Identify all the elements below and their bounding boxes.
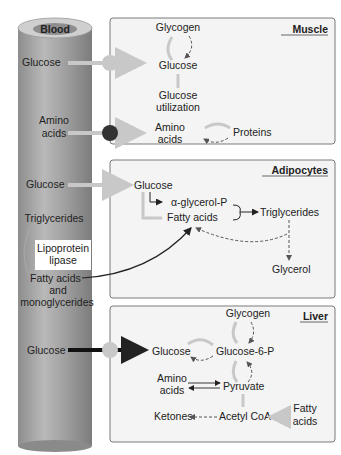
blood-fa-l1: Fatty acids (30, 272, 81, 284)
adipocytes-title: Adipocytes (271, 164, 328, 176)
adipo-triglycerides: Triglycerides (260, 206, 319, 218)
liver-fa-l1: Fatty (293, 402, 317, 414)
muscle-glucose-transporter (102, 55, 118, 71)
blood-amino-l2: acids (42, 127, 67, 139)
blood-glucose-liver: Glucose (27, 344, 66, 356)
blood-glucose-adipo: Glucose (26, 178, 65, 190)
liver-title: Liver (303, 310, 328, 322)
muscle-title: Muscle (292, 23, 328, 35)
liver-glycogen: Glycogen (226, 307, 271, 319)
muscle-amino-l2: acids (158, 133, 183, 145)
lpl-l2: lipase (49, 254, 77, 266)
liver-amino-l1: Amino (157, 372, 187, 384)
adipo-agp: α-glycerol-P (171, 196, 227, 208)
muscle-amino-l1: Amino (155, 121, 185, 133)
blood-triglycerides: Triglycerides (24, 212, 83, 224)
blood-glucose-muscle: Glucose (22, 56, 61, 68)
liver-g6p: Glucose-6-P (216, 345, 274, 357)
metabolism-diagram: Blood Glucose Amino acids Glucose Trigly… (0, 0, 341, 455)
vessel-bottom (18, 440, 92, 452)
blood-amino-l1: Amino (39, 114, 69, 126)
liver-amino-l2: acids (160, 384, 185, 396)
adipo-fatty-acids: Fatty acids (167, 211, 218, 223)
muscle-util-l2: utilization (156, 101, 200, 113)
adipo-glycerol: Glycerol (272, 263, 311, 275)
vessel-label: Blood (40, 23, 70, 35)
vessel-body (18, 28, 92, 446)
blood-fa-l3: monoglycerides (20, 296, 94, 308)
liver-glucose: Glucose (152, 345, 191, 357)
muscle-amino-transporter (102, 125, 118, 141)
muscle-proteins: Proteins (233, 126, 272, 138)
liver-pyruvate: Pyruvate (223, 380, 265, 392)
adipo-glucose-transporter (102, 177, 118, 193)
adipo-glucose: Glucose (134, 179, 173, 191)
liver-acetyl-coa: Acetyl CoA (219, 410, 271, 422)
liver-ketones: Ketones (154, 410, 193, 422)
blood-vessel: Blood (18, 18, 92, 452)
muscle-glycogen: Glycogen (156, 21, 201, 33)
blood-fa-l2: and (49, 284, 67, 296)
liver-fa-l2: acids (293, 415, 318, 427)
muscle-glucose: Glucose (159, 59, 198, 71)
muscle-util-l1: Glucose (159, 89, 198, 101)
lpl-l1: Lipoprotein (37, 242, 89, 254)
liver-glucose-transporter (102, 342, 118, 358)
